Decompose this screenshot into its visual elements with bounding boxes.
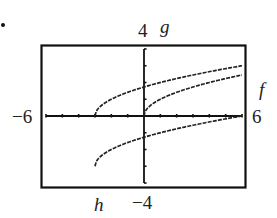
x-min-label: −6	[12, 107, 32, 126]
curve-f	[144, 75, 242, 116]
curve-label-h: h	[94, 195, 104, 214]
y-min-label: −4	[132, 193, 152, 212]
curve-label-f: f	[259, 80, 264, 99]
curve-h	[95, 116, 242, 166]
x-max-label: 6	[252, 107, 262, 126]
y-max-label: 4	[138, 21, 148, 40]
curve-label-g: g	[160, 17, 170, 36]
curve-g	[95, 66, 242, 116]
